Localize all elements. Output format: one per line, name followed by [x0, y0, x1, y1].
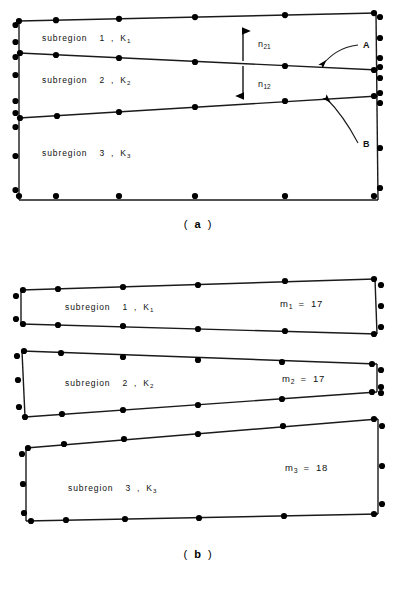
panel-a-subregion-2-label: subregion2,K2 — [42, 75, 130, 86]
panel-b-node-count-m3: m3=18 — [285, 462, 328, 474]
panel-a-nodes-interface-a — [17, 50, 377, 73]
panel-a-caption: ( a ) — [0, 218, 397, 230]
normal-label-n12: n12 — [258, 79, 271, 90]
panel-b-subregion-1-label: subregion1,K1 — [65, 302, 153, 313]
callout-leader-b — [326, 98, 358, 143]
panel-a-interface-b — [19, 96, 378, 118]
callout-leader-a — [322, 45, 358, 65]
panel-b-subregion-3-nodes — [19, 416, 385, 524]
panel-b-node-count-m2: m2=17 — [282, 373, 325, 385]
figure-container: subregion1,K1 subregion2,K2 subregion3,K… — [0, 0, 397, 590]
panel-a-subregion-1-label: subregion1,K1 — [42, 33, 130, 44]
panel-a-subregion-3-label: subregion3,K3 — [42, 148, 130, 159]
panel-b-subregion-2-label: subregion2,K2 — [65, 378, 153, 389]
panel-a-nodes-interface-b — [17, 93, 377, 121]
panel-a-interface-a — [19, 53, 378, 70]
panel-a-nodes-left — [12, 22, 18, 193]
panel-b-subregion-3-label: subregion3,K3 — [68, 483, 156, 494]
panel-a-nodes-top — [16, 10, 377, 24]
callout-label-a: A — [363, 40, 370, 50]
normal-label-n21: n21 — [258, 39, 271, 50]
callout-label-b: B — [363, 139, 370, 149]
mesh-drawing — [0, 0, 397, 590]
panel-a-nodes-bottom — [16, 193, 377, 199]
panel-b-node-count-m1: m1=17 — [280, 298, 323, 310]
panel-b-caption: ( b ) — [0, 548, 397, 560]
